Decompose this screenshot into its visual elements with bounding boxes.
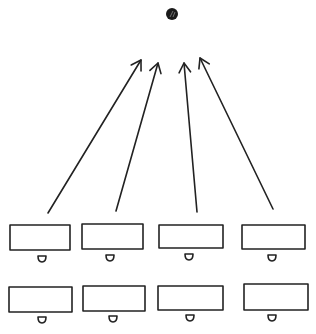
- desk: [244, 284, 308, 310]
- desk: [242, 225, 305, 249]
- sketch-svg: [0, 0, 316, 334]
- arrow-shaft: [48, 60, 141, 213]
- desk: [83, 286, 145, 311]
- seat-icon: [38, 256, 46, 262]
- arrow-shaft: [116, 63, 158, 211]
- seat-icon: [268, 315, 276, 321]
- desk: [9, 287, 72, 312]
- arrow-shaft: [184, 63, 197, 212]
- seat-icon: [185, 254, 193, 260]
- diagram-canvas: [0, 0, 316, 334]
- seat-icon: [186, 315, 194, 321]
- seat-icon: [268, 255, 276, 261]
- desk: [82, 224, 143, 249]
- desk: [159, 225, 223, 248]
- seat-icon: [106, 255, 114, 261]
- ball-icon: [166, 8, 178, 20]
- desk: [10, 225, 70, 250]
- desk: [158, 286, 223, 310]
- seat-icon: [109, 316, 117, 322]
- arrow-shaft: [200, 58, 273, 209]
- seat-icon: [38, 317, 46, 323]
